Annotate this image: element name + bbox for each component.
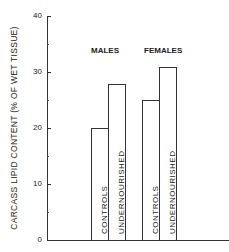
y-minor-tick [47, 44, 49, 45]
y-axis-label: CARCASS LIPID CONTENT (% OF WET TISSUE) [9, 26, 19, 229]
y-tick-30: 30 [28, 67, 42, 76]
y-tick-mark [47, 128, 51, 129]
y-minor-tick [47, 100, 49, 101]
y-tick-mark [47, 72, 51, 73]
y-minor-tick [47, 156, 49, 157]
bar-label-undernourished: UNDERNOURISHED [168, 151, 177, 234]
bar-females-undernourished: UNDERNOURISHED [159, 67, 177, 240]
bar-males-undernourished: UNDERNOURISHED [108, 84, 126, 240]
y-tick-mark [47, 16, 51, 17]
bar-label-undernourished: UNDERNOURISHED [117, 151, 126, 234]
y-tick-0: 0 [28, 235, 42, 244]
y-tick-10: 10 [28, 179, 42, 188]
y-minor-tick [47, 212, 49, 213]
y-tick-20: 20 [28, 123, 42, 132]
group-label-males: MALES [91, 46, 119, 55]
bar-females-controls: CONTROLS [142, 100, 160, 240]
bar-males-controls: CONTROLS [91, 128, 109, 240]
x-axis [47, 240, 229, 241]
group-label-females: FEMALES [144, 46, 182, 55]
y-tick-mark [47, 184, 51, 185]
y-tick-40: 40 [28, 11, 42, 20]
